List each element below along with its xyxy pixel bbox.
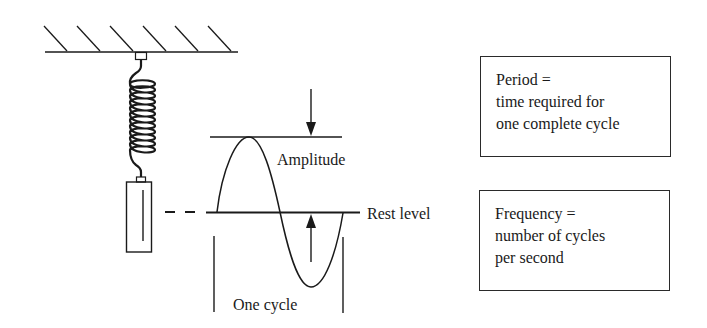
period-definition-line: one complete cycle — [496, 113, 670, 135]
spring — [130, 60, 155, 177]
frequency-definition-line: number of cycles — [495, 225, 669, 247]
amplitude-label: Amplitude — [277, 151, 345, 169]
ceiling-support — [44, 26, 238, 52]
period-heading: Period = — [496, 69, 670, 91]
amplitude-arrow-up — [306, 214, 316, 262]
one-cycle-label: One cycle — [233, 296, 297, 314]
frequency-definition-box: Frequency = number of cycles per second — [479, 190, 670, 291]
spring-mount — [136, 53, 147, 60]
period-definition-box: Period = time required for one complete … — [480, 56, 671, 157]
frequency-heading: Frequency = — [495, 203, 669, 225]
rest-level-label: Rest level — [367, 205, 431, 223]
amplitude-arrow-down — [306, 89, 316, 136]
period-definition-line: time required for — [496, 91, 670, 113]
hanging-weight — [127, 177, 152, 252]
frequency-definition-line: per second — [495, 247, 669, 269]
